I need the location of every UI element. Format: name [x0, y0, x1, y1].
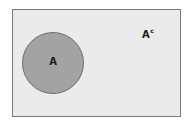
complement-label: Ac: [142, 25, 154, 41]
complement-superscript: c: [150, 27, 154, 34]
complement-base: A: [142, 29, 150, 40]
set-a-label: A: [47, 56, 59, 68]
